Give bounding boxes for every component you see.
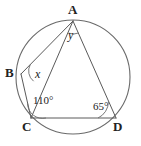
vertex-label-d: D — [113, 120, 122, 133]
angle-label-d-65: 65° — [93, 101, 108, 112]
vertex-label-b: B — [5, 66, 14, 79]
segment-a-b — [21, 21, 73, 74]
geometry-figure: A B C D y x 110° 65° — [0, 0, 141, 146]
angle-label-c-110: 110° — [33, 95, 54, 106]
vertex-label-c: C — [22, 120, 31, 133]
angle-label-x: x — [35, 68, 40, 80]
angle-label-y: y — [68, 29, 73, 41]
vertex-label-a: A — [68, 3, 77, 16]
angle-arc-b-x — [29, 65, 34, 82]
